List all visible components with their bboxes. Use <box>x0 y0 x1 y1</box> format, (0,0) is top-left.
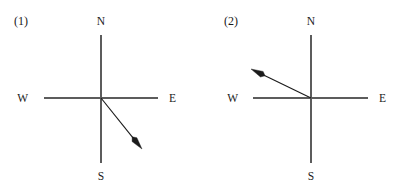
panel-1-south-label: S <box>98 170 104 182</box>
panel-1-north-label: N <box>97 15 106 27</box>
panel-1-east-label: E <box>169 92 176 104</box>
compass-diagrams-figure: (1) N S E W (2) N S E W <box>0 0 401 193</box>
figure-background <box>0 0 401 193</box>
panel-2-north-label: N <box>307 15 316 27</box>
panel-2-east-label: E <box>379 92 386 104</box>
panel-2-west-label: W <box>227 92 238 104</box>
panel-1-west-label: W <box>17 92 28 104</box>
panel-1-number-label: (1) <box>14 14 28 28</box>
panel-2-south-label: S <box>308 170 314 182</box>
panel-2-number-label: (2) <box>224 14 238 28</box>
